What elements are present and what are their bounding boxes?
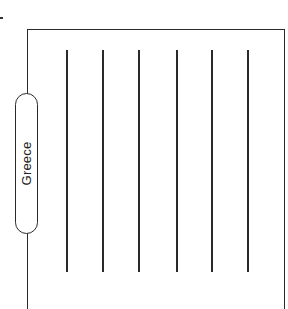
vertical-line-2 — [102, 50, 104, 272]
country-label-pill: Greece — [15, 93, 38, 234]
country-label-text: Greece — [19, 142, 34, 186]
vertical-line-5 — [211, 50, 213, 272]
vertical-line-6 — [247, 50, 249, 272]
corner-tick-mark — [0, 17, 3, 19]
vertical-line-3 — [138, 50, 140, 272]
vertical-line-4 — [176, 50, 178, 272]
vertical-line-1 — [66, 50, 68, 272]
